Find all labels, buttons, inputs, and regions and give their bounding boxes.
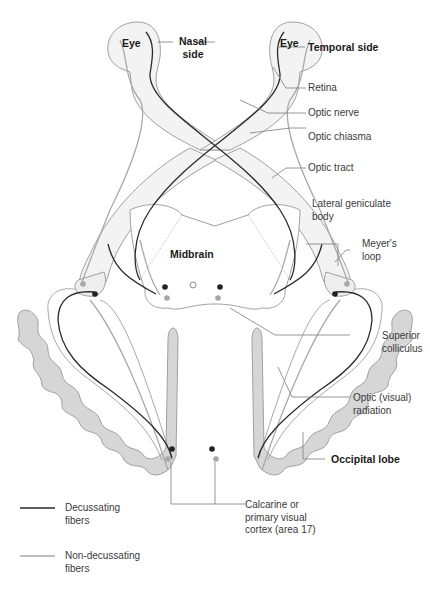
legend-dec-line-1: Decussating <box>65 502 120 515</box>
occipital-lobe-label: Occipital lobe <box>331 453 400 466</box>
calcarine-cortex-label: Calcarine or primary visual cortex (area… <box>245 499 316 537</box>
optic-tract-label: Optic tract <box>308 162 354 175</box>
visual-pathway-diagram <box>0 0 430 589</box>
superior-colliculus-label: Superior colliculus <box>382 330 423 355</box>
or-line-1: Optic (visual) <box>353 392 411 405</box>
meyers-line-2: loop <box>362 251 397 264</box>
legend-nondec-line-1: Non-decussating <box>65 550 140 563</box>
eye-right-shape <box>200 22 322 150</box>
optic-chiasma-label: Optic chiasma <box>308 131 371 144</box>
meyers-loop-label: Meyer's loop <box>362 238 397 263</box>
sc-line-2: colliculus <box>382 343 423 356</box>
legend-decussating-label: Decussating fibers <box>65 502 120 527</box>
legend-non-decussating-label: Non-decussating fibers <box>65 550 140 575</box>
nasal-side-label: Nasal side <box>178 35 208 60</box>
sc-line-1: Superior <box>382 330 423 343</box>
meyers-line-1: Meyer's <box>362 238 397 251</box>
or-line-2: radiation <box>353 405 411 418</box>
lgb-line-1: Lateral geniculate <box>312 198 391 211</box>
temporal-side-label: Temporal side <box>308 41 378 54</box>
cc-line-2: primary visual <box>245 512 316 525</box>
midbrain-label: Midbrain <box>170 248 214 261</box>
eye-left-label: Eye <box>122 37 141 50</box>
synapse-dots <box>80 281 350 462</box>
legend-nondec-line-2: fibers <box>65 563 140 576</box>
nasal-side-line-2: side <box>178 48 208 61</box>
eye-right-label: Eye <box>280 37 299 50</box>
lgb-line-2: body <box>312 211 391 224</box>
lateral-geniculate-body-label: Lateral geniculate body <box>312 198 391 223</box>
cc-line-1: Calcarine or <box>245 499 316 512</box>
occipital-cortex-left <box>18 310 178 475</box>
legend-dec-line-2: fibers <box>65 515 120 528</box>
nasal-side-line-1: Nasal <box>178 35 208 48</box>
cc-line-3: cortex (area 17) <box>245 524 316 537</box>
optic-radiation-label: Optic (visual) radiation <box>353 392 411 417</box>
retina-label: Retina <box>308 82 337 95</box>
optic-nerve-label: Optic nerve <box>308 107 359 120</box>
